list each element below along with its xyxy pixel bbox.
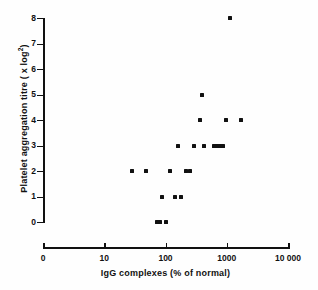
y-tick-mark [37, 171, 43, 172]
y-tick-mark [37, 146, 43, 147]
data-point [168, 169, 172, 173]
data-point [176, 144, 180, 148]
y-tick-mark [37, 18, 43, 19]
x-tick-label: 1000 [205, 254, 249, 263]
data-point [213, 144, 217, 148]
data-point [218, 144, 222, 148]
data-point [198, 118, 202, 122]
y-tick-label: 0 [22, 218, 36, 227]
data-point [200, 93, 204, 97]
data-point [144, 169, 148, 173]
data-point [155, 220, 159, 224]
y-tick-mark [37, 197, 43, 198]
y-axis-title-main: Platelet aggregation titre ( x log [19, 51, 29, 192]
x-axis-title: IgG complexes (% of normal) [43, 268, 288, 278]
x-tick-mark [43, 243, 45, 249]
y-axis-title-superscript: 2 [17, 48, 24, 52]
data-point [184, 169, 188, 173]
x-tick-label: 100 [144, 254, 188, 263]
y-tick-mark [37, 69, 43, 70]
x-tick-mark [227, 243, 229, 249]
data-point [221, 144, 225, 148]
y-tick-mark [37, 222, 43, 223]
data-point [173, 195, 177, 199]
data-point [179, 195, 183, 199]
x-tick-mark [166, 243, 168, 249]
x-tick-mark [288, 243, 290, 249]
data-point [158, 220, 162, 224]
y-axis-title: Platelet aggregation titre ( x log2) [16, 19, 29, 219]
data-point [164, 220, 168, 224]
y-tick-mark [37, 95, 43, 96]
data-point [215, 144, 219, 148]
data-point [228, 16, 232, 20]
data-point [188, 169, 192, 173]
x-tick-mark [104, 243, 106, 249]
data-point [192, 144, 196, 148]
y-axis-line [43, 18, 45, 223]
x-tick-label: 10 000 [266, 254, 310, 263]
x-tick-label: 10 [82, 254, 126, 263]
data-point [160, 195, 164, 199]
data-point [130, 169, 134, 173]
data-point [224, 118, 228, 122]
data-point [239, 118, 243, 122]
y-tick-mark [37, 120, 43, 121]
y-tick-mark [37, 44, 43, 45]
data-point [212, 144, 216, 148]
x-tick-label: 0 [21, 254, 65, 263]
scatter-plot-figure: 876543210 Platelet aggregation titre ( x… [0, 0, 318, 290]
y-tick-label-container: 0 [18, 218, 36, 227]
y-axis-title-close: ) [19, 44, 29, 47]
data-point [202, 144, 206, 148]
